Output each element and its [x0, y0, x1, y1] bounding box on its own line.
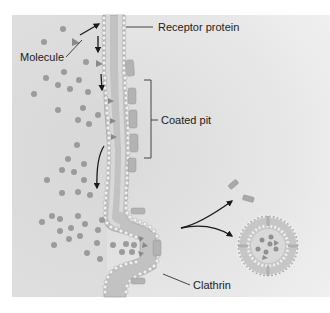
- label-coated-pit: Coated pit: [161, 114, 211, 126]
- label-clathrin: Clathrin: [193, 279, 231, 291]
- endocytosis-diagram: Receptor protein Molecule Coated pit Cla…: [0, 0, 330, 313]
- label-receptor-protein: Receptor protein: [158, 21, 239, 33]
- coated-vesicle: [238, 216, 298, 276]
- label-molecule: Molecule: [20, 51, 64, 63]
